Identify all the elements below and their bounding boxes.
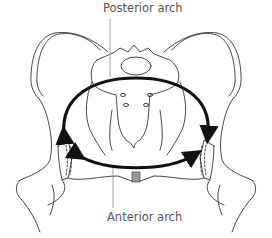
anterior-arch-arrow [78, 155, 194, 168]
pelvis-diagram [0, 0, 272, 238]
anterior-arch-label: Anterior arch [107, 210, 182, 224]
posterior-arch-label: Posterior arch [103, 1, 183, 15]
posterior-arch-arrow [64, 78, 209, 135]
pubic-symphysis [132, 172, 140, 182]
sacrum [91, 45, 178, 148]
